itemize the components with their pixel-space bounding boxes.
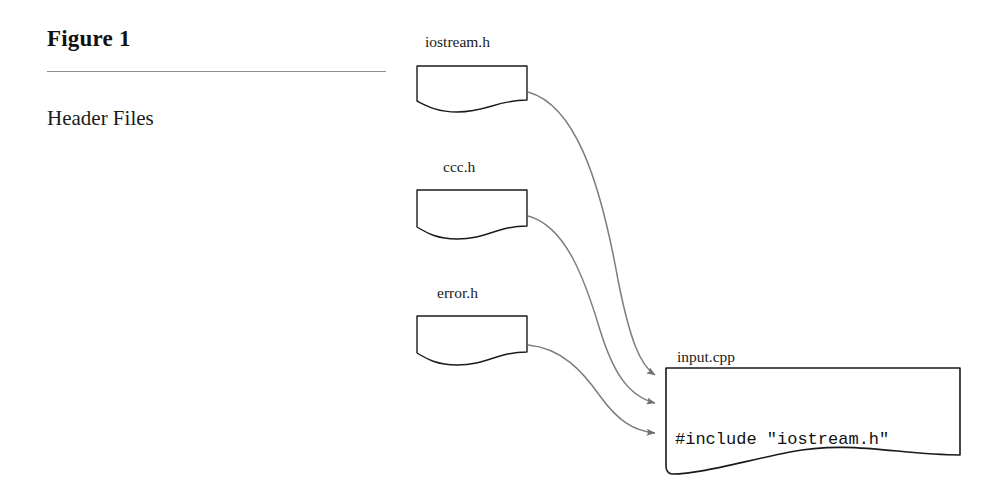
header-file-box-iostream: [417, 66, 527, 112]
header-file-box-ccc: [417, 190, 527, 239]
header-file-label-error: error.h: [437, 284, 478, 302]
source-file-label-input-cpp: input.cpp: [677, 348, 735, 366]
header-file-box-error: [417, 316, 527, 365]
code-line-1: #include "iostream.h": [675, 426, 955, 454]
header-file-label-ccc: ccc.h: [443, 158, 475, 176]
source-code-block: #include "iostream.h" #include "ccc.h" #…: [675, 370, 955, 499]
arrow-ccc-to-input: [528, 216, 655, 403]
figure-page: Figure 1 Header Files iostream.h ccc.h e…: [0, 0, 1005, 499]
arrow-iostream-to-input: [528, 92, 655, 375]
header-file-label-iostream: iostream.h: [425, 33, 490, 51]
arrow-error-to-input: [528, 345, 655, 433]
